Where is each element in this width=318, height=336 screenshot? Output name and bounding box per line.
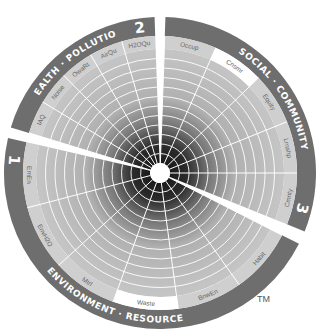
sector-number: 1 — [5, 154, 24, 166]
indicator-label: EmEn — [26, 166, 33, 184]
sustainability-wheel-diagram: IAQNoiseOwaRtAirQuH2OQuHEALTH · POLLUTIO… — [0, 0, 318, 336]
trademark-mark: TM — [257, 294, 270, 304]
center-hub — [150, 163, 170, 183]
